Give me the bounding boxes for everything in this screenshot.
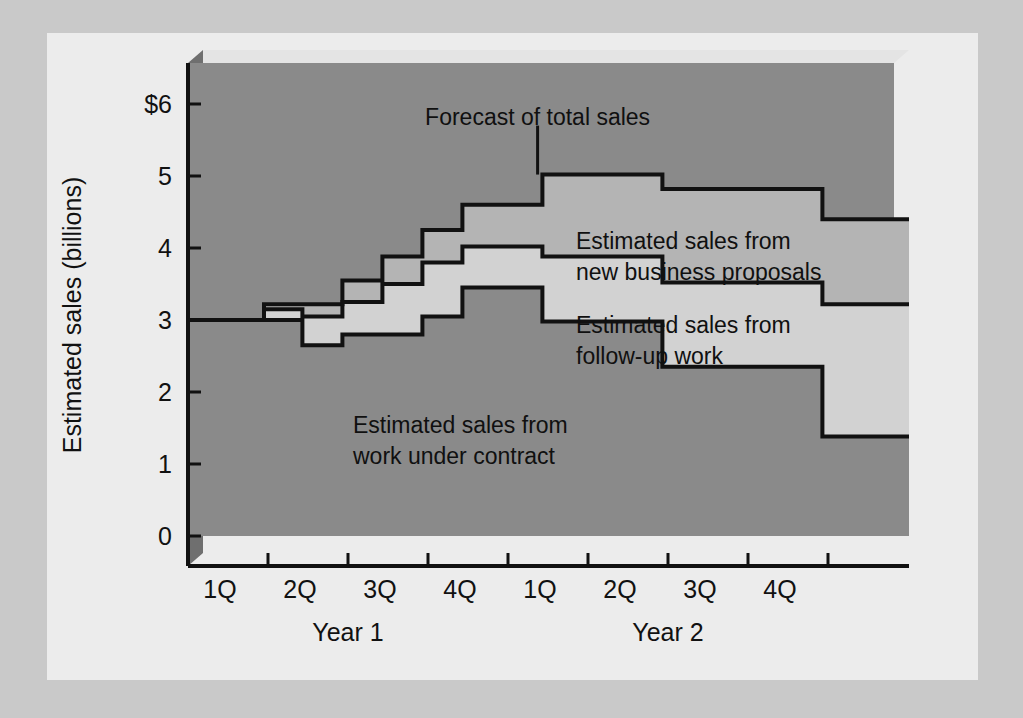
y-axis-tick-label: 4 — [158, 234, 172, 262]
plot-bevel-top — [188, 50, 909, 63]
follow-up-label-line1: Estimated sales from — [576, 312, 791, 338]
x-axis-tick-label: 4Q — [443, 575, 476, 603]
y-axis-tick-labels: 012345$6 — [144, 90, 172, 550]
y-axis-tick-label: 3 — [158, 306, 172, 334]
year-label-1: Year 1 — [312, 618, 383, 646]
new-business-label-line1: Estimated sales from — [576, 228, 791, 254]
follow-up-label-line2: follow-up work — [576, 343, 723, 369]
x-axis-tick-label: 3Q — [683, 575, 716, 603]
x-axis-tick-label: 1Q — [203, 575, 236, 603]
x-axis-tick-label: 2Q — [603, 575, 636, 603]
x-axis-tick-label: 4Q — [763, 575, 796, 603]
contract-label-line1: Estimated sales from — [353, 412, 568, 438]
y-axis-title: Estimated sales (billions) — [58, 177, 86, 454]
new-business-label-line2: new business proposals — [576, 259, 821, 285]
stacked-step-area-chart: 012345$6 1Q2Q3Q4Q1Q2Q3Q4Q Estimated sale… — [47, 33, 978, 680]
chart-figure: 012345$6 1Q2Q3Q4Q1Q2Q3Q4Q Estimated sale… — [47, 33, 978, 680]
contract-label-line2: work under contract — [352, 443, 556, 469]
x-axis-tick-labels: 1Q2Q3Q4Q1Q2Q3Q4Q — [203, 575, 796, 603]
y-axis-tick-label: $6 — [144, 90, 172, 118]
x-axis-tick-label: 2Q — [283, 575, 316, 603]
x-axis-tick-label: 3Q — [363, 575, 396, 603]
y-axis-tick-label: 1 — [158, 450, 172, 478]
y-axis-tick-label: 5 — [158, 162, 172, 190]
y-axis-tick-label: 0 — [158, 522, 172, 550]
y-axis-tick-label: 2 — [158, 378, 172, 406]
x-axis-tick-label: 1Q — [523, 575, 556, 603]
year-label-2: Year 2 — [632, 618, 703, 646]
